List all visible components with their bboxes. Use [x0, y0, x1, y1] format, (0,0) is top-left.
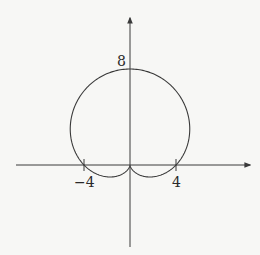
cardioid-plot: 8 −4 4: [0, 0, 260, 255]
x-label-neg4: −4: [74, 174, 95, 190]
x-label-4: 4: [172, 174, 181, 190]
y-label-8: 8: [117, 53, 126, 69]
